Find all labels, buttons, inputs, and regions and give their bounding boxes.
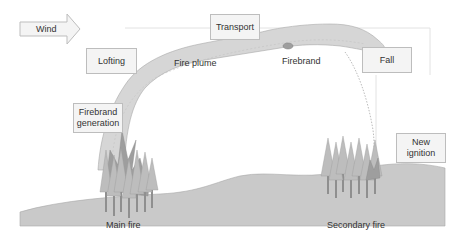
secondary-fire-label: Secondary fire (327, 220, 385, 230)
firebrand-icon (283, 43, 293, 49)
transport-label: Transport (210, 14, 260, 40)
new-ignition-label: New ignition (396, 133, 446, 163)
firebrand-label: Firebrand (282, 56, 321, 66)
fall-label: Fall (362, 47, 412, 73)
plume-centerline (112, 40, 365, 160)
wind-label: Wind (36, 24, 57, 34)
firebrand-generation-line2: generation (77, 118, 120, 129)
firebrand-generation-line1: Firebrand (79, 107, 118, 118)
main-fire-label: Main fire (106, 220, 141, 230)
firebrand-generation-label: Firebrand generation (73, 103, 123, 133)
new-ignition-line1: New (412, 137, 430, 148)
fire-plume-label: Fire plume (174, 58, 217, 68)
lofting-label: Lofting (86, 48, 137, 74)
new-ignition-line2: ignition (407, 148, 436, 159)
